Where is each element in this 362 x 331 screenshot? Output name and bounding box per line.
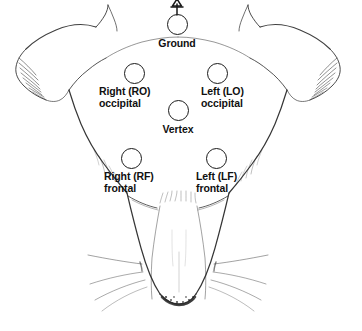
left-frontal-electrode-label-line-1: Left (LF) bbox=[196, 171, 237, 183]
ground-electrode[interactable] bbox=[167, 14, 188, 35]
vertex-electrode[interactable] bbox=[168, 100, 189, 121]
right-occipital-electrode[interactable] bbox=[124, 63, 145, 84]
left-occipital-electrode-label-line-1: Left (LO) bbox=[201, 86, 244, 98]
vertex-electrode-label-line-1: Vertex bbox=[133, 124, 223, 136]
right-frontal-electrode-label-line-2: frontal bbox=[104, 183, 154, 195]
eeg-electrode-placement-figure: GroundRight (RO)occipitalLeft (LO)occipi… bbox=[0, 0, 362, 331]
vertex-electrode-label: Vertex bbox=[133, 124, 223, 136]
left-occipital-electrode-label: Left (LO)occipital bbox=[201, 86, 244, 109]
left-frontal-electrode-label-line-2: frontal bbox=[196, 183, 237, 195]
ground-electrode-label-line-1: Ground bbox=[132, 38, 222, 50]
left-occipital-electrode-label-line-2: occipital bbox=[201, 98, 244, 110]
right-frontal-electrode-label: Right (RF)frontal bbox=[104, 171, 154, 194]
right-frontal-electrode-label-line-1: Right (RF) bbox=[104, 171, 154, 183]
ground-arrow-icon bbox=[166, 0, 188, 16]
right-frontal-electrode[interactable] bbox=[121, 148, 142, 169]
left-frontal-electrode[interactable] bbox=[206, 148, 227, 169]
animal-head-line-drawing bbox=[0, 0, 362, 331]
ground-electrode-label: Ground bbox=[132, 38, 222, 50]
left-frontal-electrode-label: Left (LF)frontal bbox=[196, 171, 237, 194]
left-occipital-electrode[interactable] bbox=[207, 63, 228, 84]
right-occipital-electrode-label-line-1: Right (RO) bbox=[99, 86, 151, 98]
right-occipital-electrode-label: Right (RO)occipital bbox=[99, 86, 151, 109]
right-occipital-electrode-label-line-2: occipital bbox=[99, 98, 151, 110]
